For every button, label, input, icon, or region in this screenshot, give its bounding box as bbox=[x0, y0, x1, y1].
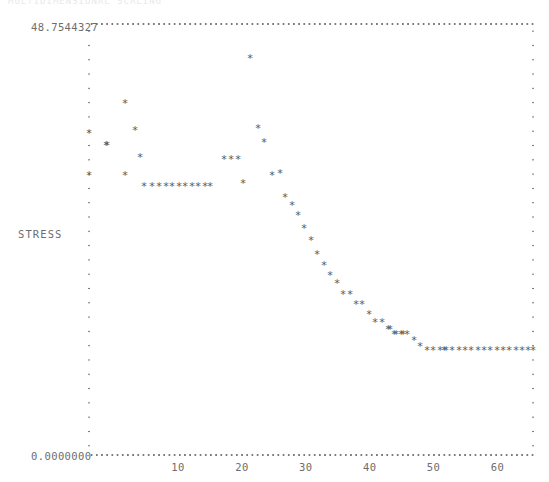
data-point-marker: * bbox=[441, 345, 448, 356]
data-point-marker: * bbox=[393, 329, 400, 340]
y-axis-title: STRESS bbox=[18, 228, 63, 240]
data-point-marker: * bbox=[468, 345, 475, 356]
data-point-marker: * bbox=[132, 125, 139, 136]
data-point-marker: * bbox=[149, 181, 156, 192]
data-point-marker: * bbox=[247, 53, 254, 64]
data-point-marker: * bbox=[282, 192, 289, 203]
data-point-marker: * bbox=[295, 210, 302, 221]
data-point-marker: * bbox=[314, 249, 321, 260]
data-point-marker: * bbox=[387, 324, 394, 335]
data-point-marker: * bbox=[277, 168, 284, 179]
data-point-marker: * bbox=[449, 345, 456, 356]
data-point-marker: * bbox=[122, 98, 129, 109]
data-point-marker: * bbox=[235, 154, 242, 165]
data-point-marker: * bbox=[506, 345, 513, 356]
data-point-marker: * bbox=[182, 181, 189, 192]
data-point-marker: * bbox=[400, 329, 407, 340]
data-point-marker: * bbox=[141, 181, 148, 192]
data-point-marker: * bbox=[195, 181, 202, 192]
data-point-marker: * bbox=[240, 178, 247, 189]
plot-frame-top bbox=[89, 23, 534, 25]
data-point-marker: * bbox=[86, 170, 93, 181]
x-tick-label-20: 20 bbox=[235, 461, 248, 473]
data-point-marker: * bbox=[327, 270, 334, 281]
data-point-marker: * bbox=[228, 154, 235, 165]
data-point-marker: * bbox=[86, 128, 93, 139]
data-point-marker: * bbox=[137, 152, 144, 163]
data-point-marker: * bbox=[359, 299, 366, 310]
data-point-marker: * bbox=[169, 181, 176, 192]
data-point-marker: * bbox=[104, 140, 111, 151]
data-point-marker: * bbox=[487, 345, 494, 356]
y-axis-min-label: 0.0000000 bbox=[31, 450, 92, 462]
x-tick-label-50: 50 bbox=[427, 461, 440, 473]
x-tick-label-10: 10 bbox=[171, 461, 184, 473]
data-point-marker: * bbox=[417, 341, 424, 352]
data-point-marker: * bbox=[221, 154, 228, 165]
data-point-marker: * bbox=[430, 345, 437, 356]
data-point-marker: * bbox=[269, 170, 276, 181]
scatter-plot-canvas: MULTIDIMENSIONAL SCALING 48.7544327 0.00… bbox=[0, 0, 549, 482]
data-point-marker: * bbox=[122, 170, 129, 181]
data-point-marker: * bbox=[156, 181, 163, 192]
data-point-marker: * bbox=[207, 181, 214, 192]
x-tick-label-60: 60 bbox=[491, 461, 504, 473]
data-point-marker: * bbox=[530, 345, 537, 356]
data-point-marker: * bbox=[340, 289, 347, 300]
data-point-marker: * bbox=[261, 137, 268, 148]
x-tick-label-40: 40 bbox=[363, 461, 376, 473]
y-axis-max-label: 48.7544327 bbox=[31, 21, 98, 33]
data-point-marker: * bbox=[301, 223, 308, 234]
data-point-marker: * bbox=[372, 317, 379, 328]
data-point-marker: * bbox=[255, 123, 262, 134]
clipped-header-text: MULTIDIMENSIONAL SCALING bbox=[8, 0, 162, 6]
plot-frame-left-axis bbox=[88, 24, 90, 455]
plot-frame-right bbox=[532, 24, 534, 455]
data-point-marker: * bbox=[308, 235, 315, 246]
x-tick-label-30: 30 bbox=[299, 461, 312, 473]
plot-frame-bottom-axis bbox=[89, 454, 534, 456]
